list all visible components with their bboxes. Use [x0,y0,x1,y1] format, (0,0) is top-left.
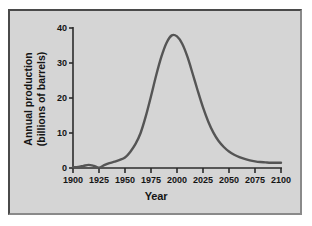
x-tick-label: 2100 [271,175,291,185]
y-tick-label: 20 [43,93,67,103]
chart-figure: Annual production (billions of barrels) … [0,0,312,226]
axis-lines [73,27,282,168]
axis-ticks [69,28,281,173]
x-tick-label: 2025 [193,175,213,185]
y-tick-label: 30 [43,58,67,68]
x-tick-label: 2000 [167,175,187,185]
x-tick-label: 1925 [89,175,109,185]
y-tick-label: 10 [43,128,67,138]
data-series-group [73,35,281,168]
x-tick-label: 1900 [63,175,83,185]
x-tick-label: 2050 [219,175,239,185]
chart-canvas [0,0,312,226]
y-tick-label: 40 [43,23,67,33]
y-tick-label: 0 [43,163,67,173]
x-tick-label: 1975 [141,175,161,185]
x-tick-label: 2075 [245,175,265,185]
x-tick-label: 1950 [115,175,135,185]
